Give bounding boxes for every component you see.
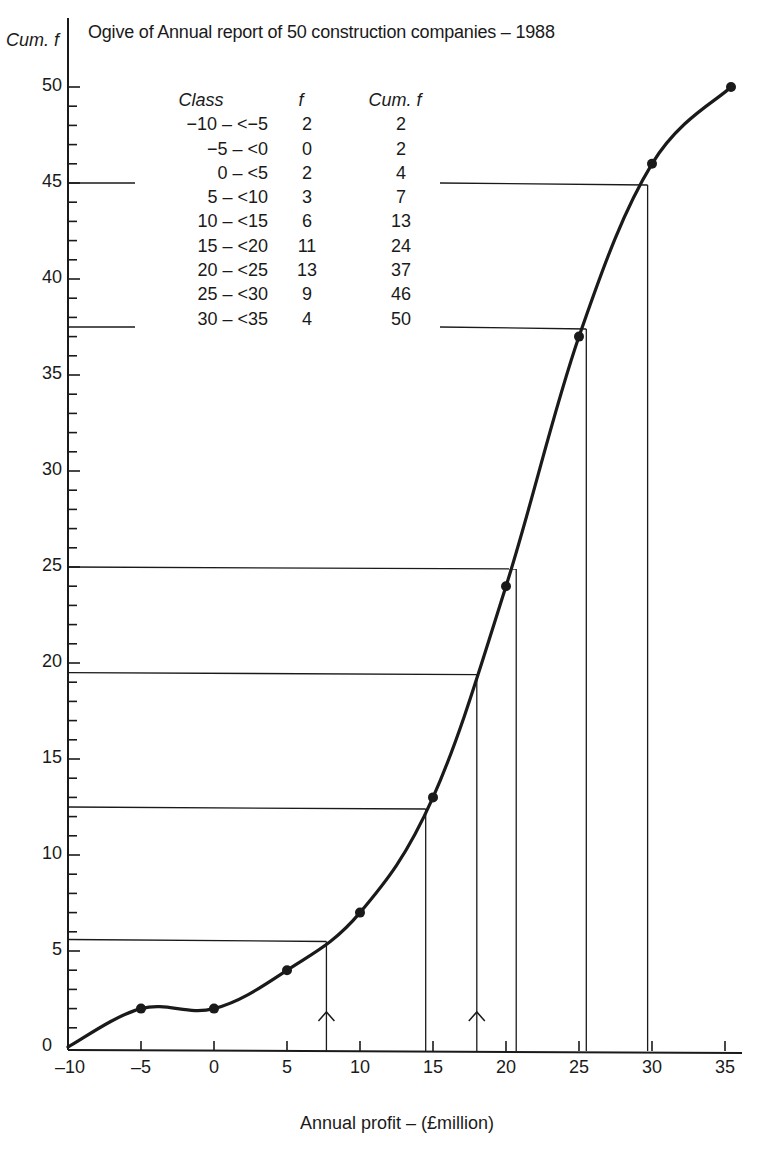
cell-f: 13 xyxy=(268,258,346,282)
x-tick-label: 35 xyxy=(703,1057,747,1078)
y-axis-label: Cum. f xyxy=(6,30,59,51)
data-point xyxy=(355,908,365,918)
y-tick-label: 0 xyxy=(8,1035,52,1056)
cell-cum-f: 4 xyxy=(346,161,456,185)
cell-class: 0 – <5 xyxy=(140,161,268,185)
x-tick-label: 0 xyxy=(192,1057,236,1078)
cell-f: 4 xyxy=(268,307,346,331)
chart-title: Ogive of Annual report of 50 constructio… xyxy=(88,22,555,43)
data-point xyxy=(574,332,584,342)
cell-cum-f: 7 xyxy=(346,185,456,209)
cell-f: 6 xyxy=(268,209,346,233)
y-tick-label: 35 xyxy=(22,363,62,384)
y-tick-label: 15 xyxy=(22,747,62,768)
x-axis-line xyxy=(68,1050,742,1053)
cell-cum-f: 13 xyxy=(346,209,456,233)
y-tick-label: 40 xyxy=(22,267,62,288)
table-row: −5 – <002 xyxy=(140,137,456,161)
frequency-table: Class f Cum. f −10 – <−522−5 – <0020 – <… xyxy=(140,88,456,331)
x-tick-label: 5 xyxy=(265,1057,309,1078)
cell-cum-f: 2 xyxy=(346,137,456,161)
table-row: 30 – <35450 xyxy=(140,307,456,331)
guide-horizontal xyxy=(440,327,586,329)
table-header: Class f Cum. f xyxy=(140,88,456,112)
table-row: 10 – <15613 xyxy=(140,209,456,233)
guide-horizontal xyxy=(68,567,516,569)
cell-cum-f: 50 xyxy=(346,307,456,331)
cell-class: 10 – <15 xyxy=(140,209,268,233)
y-tick-label: 20 xyxy=(22,651,62,672)
x-tick-label: 20 xyxy=(484,1057,528,1078)
cell-cum-f: 24 xyxy=(346,234,456,258)
data-point xyxy=(209,1004,219,1014)
guide-horizontal xyxy=(440,183,648,185)
x-tick-label: 25 xyxy=(557,1057,601,1078)
cell-class: 20 – <25 xyxy=(140,258,268,282)
data-point xyxy=(726,82,736,92)
data-point xyxy=(647,159,657,169)
y-tick-label: 30 xyxy=(22,459,62,480)
cell-cum-f: 2 xyxy=(346,112,456,136)
table-row: 20 – <251337 xyxy=(140,258,456,282)
cell-f: 2 xyxy=(268,112,346,136)
cell-class: 15 – <20 xyxy=(140,234,268,258)
cell-class: 30 – <35 xyxy=(140,307,268,331)
header-cum-f: Cum. f xyxy=(340,88,450,112)
cell-class: −5 – <0 xyxy=(140,137,268,161)
data-point xyxy=(428,792,438,802)
header-f: f xyxy=(262,88,340,112)
y-tick-label: 10 xyxy=(22,843,62,864)
cell-cum-f: 37 xyxy=(346,258,456,282)
cell-f: 11 xyxy=(268,234,346,258)
y-tick-label: 50 xyxy=(22,75,62,96)
x-tick-label: –5 xyxy=(119,1057,163,1078)
data-point xyxy=(282,965,292,975)
cell-f: 3 xyxy=(268,185,346,209)
table-body: −10 – <−522−5 – <0020 – <5245 – <103710 … xyxy=(140,112,456,331)
guide-horizontal xyxy=(68,807,426,809)
guide-horizontal xyxy=(68,939,326,941)
cell-cum-f: 46 xyxy=(346,282,456,306)
cell-f: 2 xyxy=(268,161,346,185)
table-row: 0 – <524 xyxy=(140,161,456,185)
y-tick-label: 45 xyxy=(22,171,62,192)
x-tick-label: 30 xyxy=(630,1057,674,1078)
cell-f: 0 xyxy=(268,137,346,161)
data-point xyxy=(501,581,511,591)
x-tick-label: 10 xyxy=(338,1057,382,1078)
table-row: −10 – <−522 xyxy=(140,112,456,136)
table-row: 25 – <30946 xyxy=(140,282,456,306)
y-tick-label: 25 xyxy=(22,555,62,576)
cell-f: 9 xyxy=(268,282,346,306)
y-tick-label: 5 xyxy=(22,939,62,960)
guide-horizontal xyxy=(68,673,477,675)
data-point xyxy=(136,1004,146,1014)
x-tick-label: –10 xyxy=(48,1057,92,1078)
cell-class: 25 – <30 xyxy=(140,282,268,306)
table-row: 15 – <201124 xyxy=(140,234,456,258)
x-tick-label: 15 xyxy=(411,1057,455,1078)
cell-class: −10 – <−5 xyxy=(140,112,268,136)
x-axis-label: Annual profit – (£million) xyxy=(300,1113,494,1134)
cell-class: 5 – <10 xyxy=(140,185,268,209)
table-row: 5 – <1037 xyxy=(140,185,456,209)
header-class: Class xyxy=(140,88,262,112)
